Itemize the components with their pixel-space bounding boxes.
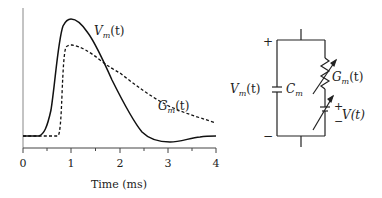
circuit-labels: + − Vm(t) Cm Gm(t) + − V(t)	[230, 35, 365, 143]
gm-circuit-label: Gm(t)	[332, 70, 363, 86]
circuit	[272, 29, 336, 147]
tick-label-1: 1	[68, 157, 75, 170]
gm-curve	[23, 45, 216, 136]
plot: 0 1 2 3 4 Time (ms) Vm(t) Gm(t)	[20, 8, 220, 191]
tick-label-4: 4	[213, 157, 220, 170]
figure: 0 1 2 3 4 Time (ms) Vm(t) Gm(t)	[0, 0, 382, 198]
resistor-gm	[321, 58, 329, 89]
tick-label-0: 0	[20, 157, 27, 170]
plus-sign: +	[263, 35, 273, 49]
tick-label-2: 2	[117, 157, 124, 170]
x-tick-labels: 0 1 2 3 4	[20, 157, 220, 170]
minus-sign: −	[263, 129, 273, 143]
x-axis-label: Time (ms)	[91, 178, 147, 191]
x-ticks	[23, 148, 216, 153]
v-label: V(t)	[342, 108, 365, 122]
cm-label: Cm	[286, 82, 303, 98]
vm-label: Vm(t)	[94, 24, 124, 40]
vm-circuit-label: Vm(t)	[230, 82, 260, 98]
gm-label: Gm(t)	[158, 99, 189, 115]
tick-label-3: 3	[165, 157, 172, 170]
